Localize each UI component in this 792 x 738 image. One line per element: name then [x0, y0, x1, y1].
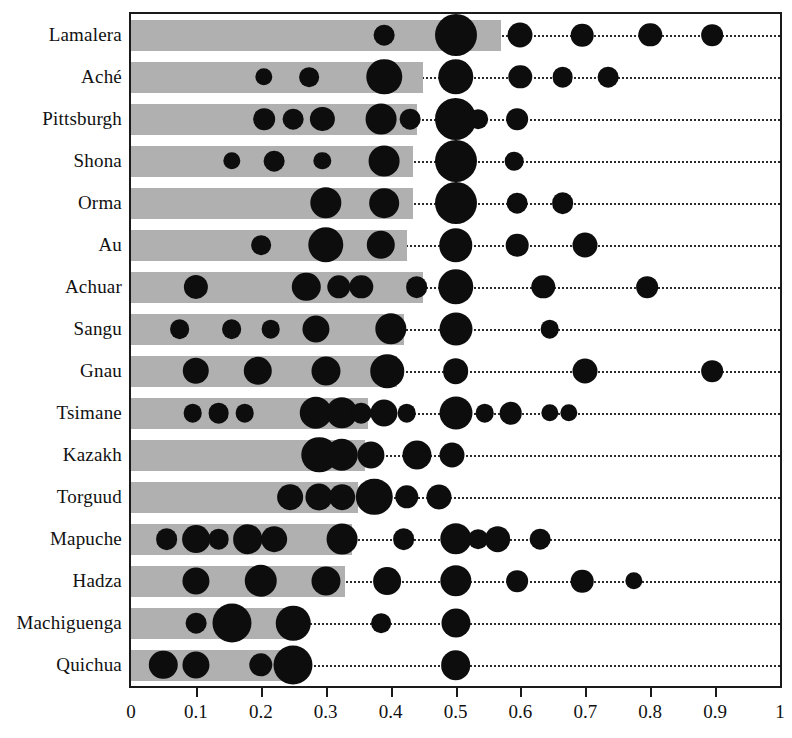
offer-frequency-dot: [529, 529, 550, 550]
offer-frequency-dot: [701, 24, 723, 46]
offer-frequency-dot: [311, 356, 340, 385]
category-label: Pittsburgh: [42, 108, 122, 130]
offer-frequency-dot: [311, 566, 340, 595]
x-axis-tick: [456, 686, 458, 697]
category-label: Kazakh: [63, 444, 122, 466]
x-axis-tick: [520, 686, 522, 697]
offer-frequency-dot: [439, 228, 473, 262]
category-label: Sangu: [74, 318, 123, 340]
category-label: Au: [98, 234, 122, 256]
x-axis-tick-label: 0.9: [703, 701, 727, 723]
offer-frequency-dot: [540, 320, 559, 339]
offer-frequency-dot: [506, 108, 528, 130]
offer-frequency-dot: [441, 608, 470, 637]
offer-frequency-dot: [398, 404, 417, 423]
category-label: Torguud: [57, 486, 122, 508]
category-label: Hadza: [72, 570, 122, 592]
offer-frequency-dot: [374, 25, 395, 46]
offer-frequency-dot: [507, 193, 528, 214]
x-axis-tick: [196, 686, 198, 697]
category-label-column: LamaleraAchéPittsburghShonaOrmaAuAchuarS…: [0, 0, 127, 738]
offer-frequency-dot: [261, 526, 287, 552]
offer-frequency-dot: [208, 529, 229, 550]
offer-frequency-dot: [351, 403, 372, 424]
offer-frequency-dot: [435, 140, 477, 182]
offer-frequency-dot: [373, 567, 401, 595]
category-label: Quichua: [56, 654, 122, 676]
offer-frequency-dot: [499, 402, 522, 425]
offer-frequency-dot: [283, 109, 304, 130]
offer-frequency-dot: [475, 404, 494, 423]
offer-frequency-dot: [369, 146, 400, 177]
offer-frequency-dot: [468, 109, 488, 129]
offer-frequency-dot: [552, 67, 573, 88]
offer-frequency-dot: [505, 152, 524, 171]
offer-frequency-dot: [443, 358, 469, 384]
offer-frequency-dot: [406, 276, 428, 298]
offer-frequency-dot: [393, 528, 415, 550]
offer-frequency-dot: [277, 484, 303, 510]
offer-frequency-dot: [435, 182, 477, 224]
offer-frequency-dot: [274, 645, 313, 684]
x-axis-tick-label: 0.4: [379, 701, 403, 723]
offer-frequency-dot: [261, 320, 280, 339]
offer-frequency-dot: [183, 404, 202, 423]
offer-frequency-dot: [235, 404, 254, 423]
x-axis-tick-label: 0: [126, 701, 136, 723]
offer-frequency-dot: [371, 354, 405, 388]
offer-frequency-dot: [276, 606, 311, 641]
offer-frequency-dot: [400, 109, 421, 130]
offer-frequency-dot: [506, 570, 528, 592]
x-axis-tick-label: 0.5: [444, 701, 468, 723]
x-axis-tick: [650, 686, 652, 697]
category-label: Tsimane: [57, 402, 123, 424]
category-label: Machiguenga: [16, 612, 122, 634]
x-axis-tick-label: 0.2: [249, 701, 273, 723]
x-axis-tick: [261, 686, 263, 697]
offer-frequency-dot: [182, 525, 210, 553]
offer-frequency-dot: [263, 151, 284, 172]
offer-frequency-dot: [170, 319, 190, 339]
offer-frequency-dot: [251, 235, 271, 255]
offer-frequency-dot: [253, 108, 275, 130]
x-axis-tick-label: 0.3: [314, 701, 338, 723]
offer-frequency-dot: [212, 603, 251, 642]
offer-frequency-dot: [573, 233, 598, 258]
offer-frequency-dot: [156, 528, 178, 550]
category-label: Achuar: [65, 276, 122, 298]
category-label: Aché: [81, 66, 122, 88]
x-axis-tick-label: 0.8: [638, 701, 662, 723]
offer-frequency-dot: [508, 23, 533, 48]
category-label: Orma: [78, 192, 122, 214]
x-axis-tick: [391, 686, 393, 697]
offer-frequency-dot: [365, 104, 396, 135]
offer-frequency-dot: [208, 403, 229, 424]
category-label: Mapuche: [50, 528, 122, 550]
offer-frequency-dot: [435, 14, 477, 56]
offer-frequency-dot: [327, 524, 358, 555]
offer-frequency-dot: [233, 524, 263, 554]
offer-frequency-dot: [571, 570, 594, 593]
offer-frequency-dot: [427, 485, 452, 510]
x-axis-tick-label: 0.7: [573, 701, 597, 723]
offer-frequency-dot: [186, 613, 207, 634]
category-label: Gnau: [80, 360, 122, 382]
offer-frequency-dot: [440, 443, 465, 468]
offer-frequency-dot: [439, 313, 472, 346]
offer-frequency-dot: [300, 67, 320, 87]
offer-frequency-dot: [506, 234, 529, 257]
offer-frequency-dot: [552, 192, 574, 214]
category-label: Shona: [74, 150, 123, 172]
x-axis-tick-label: 1: [775, 701, 785, 723]
offer-frequency-dot: [701, 360, 723, 382]
offer-frequency-dot: [369, 188, 399, 218]
x-axis-tick: [326, 686, 328, 697]
x-axis-tick: [715, 686, 717, 697]
offer-frequency-dot: [439, 397, 472, 430]
offer-frequency-dot: [402, 440, 431, 469]
offer-frequency-dot: [371, 613, 391, 633]
mean-bar: [131, 272, 423, 303]
x-axis-tick-label: 0.1: [184, 701, 208, 723]
offer-frequency-dot: [636, 276, 658, 298]
offer-frequency-dot: [573, 359, 598, 384]
